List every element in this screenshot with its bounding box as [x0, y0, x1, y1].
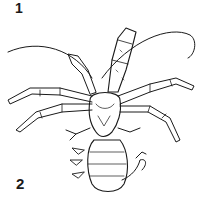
right-leg-2 [120, 106, 180, 142]
carapace [89, 93, 120, 137]
small-claw [68, 54, 96, 94]
left-leg-2 [16, 104, 92, 132]
left-antenna [8, 46, 92, 78]
abdomen [88, 140, 128, 192]
right-leg-1 [118, 78, 194, 104]
hermit-crab-illustration [0, 0, 200, 197]
right-antenna [102, 32, 195, 78]
left-leg-1 [8, 88, 92, 104]
figure-label-2: 2 [16, 176, 24, 191]
